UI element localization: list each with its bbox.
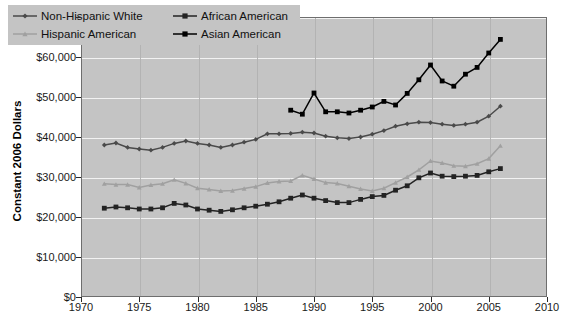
series-hispanic-american (102, 143, 503, 193)
data-point-marker (182, 13, 187, 18)
x-axis-tick-mark (81, 297, 82, 302)
data-point-marker (277, 199, 282, 204)
data-point-marker (323, 198, 328, 203)
data-point-marker (288, 196, 293, 201)
data-point-marker (475, 65, 480, 70)
data-point-marker (440, 122, 445, 127)
data-point-marker (265, 202, 270, 207)
data-point-marker (312, 196, 317, 201)
y-axis-tick-mark (76, 17, 81, 18)
data-point-marker (125, 205, 130, 210)
data-point-marker (451, 123, 456, 128)
legend-marker-square-dark-icon (172, 10, 198, 22)
data-point-marker (218, 145, 223, 150)
data-point-marker (347, 111, 352, 116)
data-point-marker (22, 13, 27, 18)
data-point-marker (312, 91, 317, 96)
y-axis-title: Constant 2006 Dollars (11, 61, 23, 261)
x-axis-tick-mark (198, 297, 199, 302)
data-point-marker (382, 128, 387, 133)
data-point-marker (405, 91, 410, 96)
legend-row-2: Hispanic American Asian American (12, 25, 296, 43)
data-point-marker (358, 135, 363, 140)
data-point-marker (114, 205, 119, 210)
y-axis-tick-label: $10,000 (36, 251, 76, 263)
data-point-marker (370, 132, 375, 137)
data-point-marker (463, 122, 468, 127)
x-axis-tick-label: 1980 (185, 301, 209, 313)
data-point-marker (405, 121, 410, 126)
data-point-marker (277, 131, 282, 136)
data-point-marker (463, 72, 468, 77)
y-axis-tick-mark (76, 177, 81, 178)
chart-legend: Non-Hispanic White African American Hisp… (8, 5, 300, 45)
data-point-marker (125, 145, 130, 150)
data-point-marker (358, 108, 363, 113)
data-point-marker (486, 169, 491, 174)
x-axis-tick-label: 1985 (244, 301, 268, 313)
data-point-marker (370, 194, 375, 199)
legend-label: African American (201, 10, 288, 22)
legend-marker-square-black-icon (172, 28, 198, 40)
income-by-race-line-chart: $0$10,000$20,000$30,000$40,000$50,000$60… (0, 0, 577, 330)
x-axis-tick-mark (314, 297, 315, 302)
data-point-marker (475, 173, 480, 178)
data-point-marker (102, 143, 107, 148)
data-point-marker (428, 63, 433, 68)
data-point-marker (358, 197, 363, 202)
data-point-marker (183, 203, 188, 208)
data-point-marker (183, 139, 188, 144)
legend-label: Non-Hispanic White (41, 10, 143, 22)
x-axis-tick-mark (547, 297, 548, 302)
y-axis-tick-label: $40,000 (36, 131, 76, 143)
data-point-marker (440, 79, 445, 84)
data-point-marker (182, 31, 187, 36)
data-point-marker (451, 84, 456, 89)
legend-label: Asian American (201, 28, 281, 40)
series-non-hispanic-white (102, 104, 503, 153)
legend-entry-asian-american: Asian American (172, 25, 281, 43)
data-point-marker (486, 51, 491, 56)
y-axis-tick-mark (76, 257, 81, 258)
y-axis-tick-mark (76, 217, 81, 218)
data-point-marker (347, 200, 352, 205)
data-point-marker (335, 135, 340, 140)
data-point-marker (416, 120, 421, 125)
data-point-marker (451, 174, 456, 179)
legend-entry-hispanic-american: Hispanic American (12, 25, 172, 43)
x-axis-tick-label: 2000 (418, 301, 442, 313)
data-point-marker (137, 147, 142, 152)
data-point-marker (393, 124, 398, 129)
data-point-marker (323, 109, 328, 114)
x-axis-tick-mark (431, 297, 432, 302)
data-point-marker (218, 209, 223, 214)
data-point-marker (149, 207, 154, 212)
data-point-marker (265, 131, 270, 136)
data-point-marker (102, 206, 107, 211)
x-axis-tick-mark (256, 297, 257, 302)
data-point-marker (416, 175, 421, 180)
data-point-marker (300, 193, 305, 198)
data-point-marker (288, 108, 293, 113)
data-point-marker (172, 201, 177, 206)
y-axis-tick-label: $60,000 (36, 51, 76, 63)
data-point-marker (300, 130, 305, 135)
data-point-marker (160, 205, 165, 210)
y-axis-tick-mark (76, 57, 81, 58)
data-point-marker (230, 143, 235, 148)
data-point-marker (428, 120, 433, 125)
data-point-marker (195, 207, 200, 212)
y-axis-tick-label: $50,000 (36, 91, 76, 103)
x-axis-tick-label: 1975 (127, 301, 151, 313)
y-axis-tick-label: $30,000 (36, 171, 76, 183)
data-point-marker (393, 103, 398, 108)
series-layer (81, 17, 547, 297)
x-axis-tick-mark (489, 297, 490, 302)
data-point-marker (382, 99, 387, 104)
data-point-marker (195, 141, 200, 146)
legend-entry-non-hispanic-white: Non-Hispanic White (12, 7, 172, 25)
legend-marker-triangle-icon (12, 28, 38, 40)
data-point-marker (335, 109, 340, 114)
data-point-marker (230, 207, 235, 212)
data-point-marker (312, 131, 317, 136)
